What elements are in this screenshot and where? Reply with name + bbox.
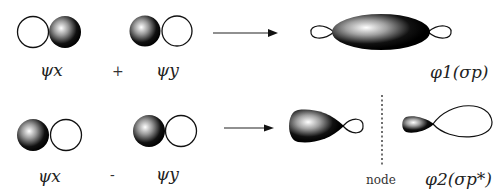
psi-y-orbital-row1 — [130, 16, 193, 47]
label-phi1-sigma-p: φ1(σp) — [430, 64, 488, 81]
arrow-icon-row2 — [224, 125, 274, 132]
label-psi-y-row2: ψy — [156, 166, 179, 183]
label-node: node — [366, 174, 396, 186]
sigma-bonding-orbital — [311, 14, 451, 50]
orbital-diagram — [0, 0, 501, 191]
arrow-icon-row1 — [213, 29, 278, 37]
psi-y-orbital-row2 — [133, 115, 197, 147]
p-orbital-middle — [289, 110, 363, 143]
label-psi-y-row1: ψy — [156, 62, 179, 79]
p-orbital-antibonding — [402, 106, 492, 137]
label-psi-x-row1: ψx — [40, 62, 63, 79]
operator-minus: - — [110, 168, 115, 182]
label-phi2-sigma-p-star: φ2(σp*) — [425, 171, 492, 188]
label-psi-x-row2: ψx — [38, 168, 61, 185]
psi-x-orbital-row1 — [18, 16, 82, 48]
psi-x-orbital-row2 — [17, 119, 82, 151]
operator-plus: + — [112, 64, 124, 78]
